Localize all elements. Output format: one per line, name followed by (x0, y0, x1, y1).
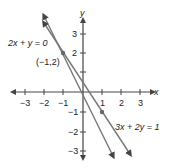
x-tick: −1 (58, 98, 68, 108)
x-tick: 1 (100, 98, 105, 108)
y-tick: −3 (68, 146, 78, 156)
point-1-neg1 (100, 110, 104, 114)
line1-label: 2x + y = 0 (7, 38, 48, 48)
line-3x-plus-2y-eq-1 (44, 23, 130, 154)
intersection-point (61, 51, 65, 55)
y-axis-label: y (79, 8, 85, 18)
y-axis (80, 20, 86, 158)
x-tick: −3 (20, 98, 30, 108)
x-tick: −2 (39, 98, 49, 108)
y-tick: 3 (72, 29, 77, 39)
y-tick: −1 (68, 107, 78, 117)
y-tick: 2 (72, 48, 77, 58)
x-axis-label: x (153, 87, 159, 97)
point-label: (−1,2) (36, 57, 60, 67)
line-2x-plus-y-eq-0 (44, 16, 113, 156)
graph: −3 −2 −1 1 2 3 3 2 −1 −2 −3 x y 2x + y =… (0, 0, 170, 168)
line2-label: 3x + 2y = 1 (115, 122, 160, 132)
x-tick: 2 (119, 98, 124, 108)
y-tick: −2 (68, 127, 78, 137)
x-tick: 3 (138, 98, 143, 108)
